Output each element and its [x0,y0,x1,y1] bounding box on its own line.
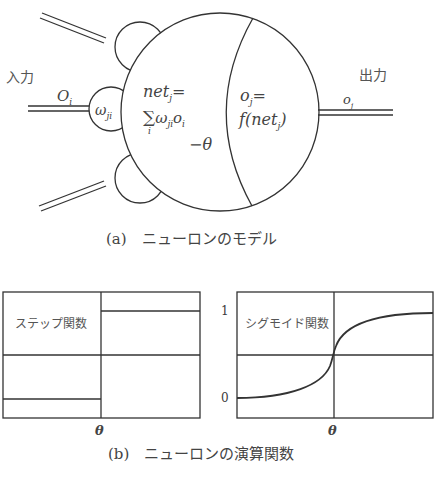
sigmoid-ytick-0: 0 [221,392,229,404]
output-equation-line1: oj= [240,88,266,107]
net-equation-line1: netj= [143,84,185,103]
weight-label: ωji [95,103,112,121]
output-equation-line2: f(netj) [239,112,286,131]
output-label: 出力 [359,68,387,82]
input-label: 入力 [6,70,34,84]
input-signal-label: Oi [57,89,72,107]
caption-b: (b) ニューロンの演算関数 [108,447,294,462]
caption-a: (a) ニューロンのモデル [106,232,277,247]
sigmoid-chart [237,292,433,418]
sigmoid-chart-xlabel: θ [328,424,337,437]
step-chart-xlabel: θ [95,424,104,437]
output-signal-label: oj [343,93,353,110]
theta-term: −θ [189,137,212,153]
sigmoid-chart-title: シグモイド関数 [245,318,329,330]
sum-index: i [148,127,151,136]
sigmoid-ytick-1: 1 [221,305,229,317]
input-line-top [40,13,106,43]
step-chart-title: ステップ関数 [15,318,87,330]
input-line-bottom [39,181,106,211]
output-line [318,110,393,115]
step-chart [3,292,200,418]
